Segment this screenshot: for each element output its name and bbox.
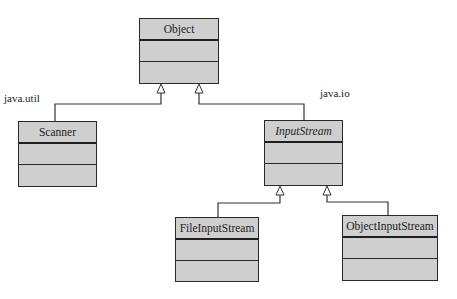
scanner-to-object-line xyxy=(55,92,161,121)
methods-compartment xyxy=(19,165,96,186)
class-box-fileinputstream: FileInputStream xyxy=(175,217,259,282)
generalization-arrowhead-icon xyxy=(276,186,284,195)
attributes-compartment xyxy=(176,240,258,261)
attributes-compartment xyxy=(265,143,342,164)
class-name-abstract: InputStream xyxy=(265,121,342,143)
package-label-java-io: java.io xyxy=(320,87,350,99)
class-name: Object xyxy=(140,19,218,41)
generalization-arrowhead-icon xyxy=(195,84,203,93)
package-label-java-util: java.util xyxy=(4,92,40,104)
fileinputstream-to-inputstream-line xyxy=(218,194,280,217)
methods-compartment xyxy=(176,261,258,282)
class-box-scanner: Scanner xyxy=(18,121,97,187)
methods-compartment xyxy=(265,164,342,185)
class-box-object: Object xyxy=(139,18,219,84)
attributes-compartment xyxy=(19,144,96,165)
inputstream-to-object-line xyxy=(199,92,304,120)
uml-class-diagram: java.util java.io Object Scanner InputSt… xyxy=(0,0,457,299)
objectinputstream-to-inputstream-line xyxy=(327,194,388,215)
class-box-inputstream: InputStream xyxy=(264,120,343,186)
attributes-compartment xyxy=(343,238,437,259)
class-name: ObjectInputStream xyxy=(343,216,437,238)
generalization-arrowhead-icon xyxy=(323,186,331,195)
generalization-arrowhead-icon xyxy=(157,84,165,93)
class-box-objectinputstream: ObjectInputStream xyxy=(342,215,438,281)
methods-compartment xyxy=(343,259,437,280)
attributes-compartment xyxy=(140,41,218,62)
class-name: Scanner xyxy=(19,122,96,144)
class-name: FileInputStream xyxy=(176,218,258,240)
methods-compartment xyxy=(140,62,218,83)
